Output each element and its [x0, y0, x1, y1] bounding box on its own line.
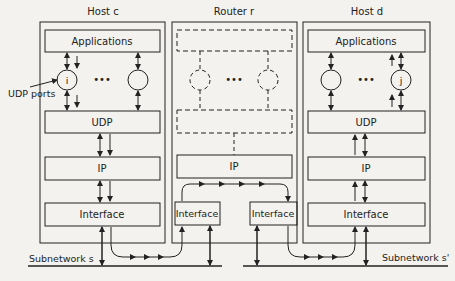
host-c-udp-label: UDP — [91, 117, 112, 128]
host-d-interface-label: Interface — [344, 209, 389, 220]
host-d: Host d Applications ••• j UDP IP Interfa… — [303, 6, 430, 243]
router-interface-left-label: Interface — [176, 208, 219, 219]
router-port-dashed-2 — [258, 70, 278, 90]
network-diagram: Host c Applications i ••• UDP ports UDP … — [0, 0, 455, 281]
host-d-ellipsis: ••• — [357, 74, 375, 85]
host-d-title: Host d — [351, 6, 383, 17]
router-port-dashed-1 — [190, 70, 210, 90]
router-udp-dashed — [177, 110, 292, 133]
router-ip-label: IP — [230, 161, 239, 172]
router-title: Router r — [214, 6, 255, 17]
udp-ports-annotation: UDP ports — [8, 88, 55, 99]
host-c-interface-label: Interface — [80, 209, 125, 220]
subnetwork-s-label: Subnetwork s — [29, 253, 94, 264]
router-ellipsis: ••• — [225, 74, 243, 85]
subnetwork-s-prime-label: Subnetwork s' — [382, 252, 449, 263]
router-r: Router r ••• IP Interface Interface — [172, 6, 297, 265]
host-c-ip-label: IP — [98, 163, 107, 174]
host-c-applications-label: Applications — [71, 36, 132, 47]
udp-port-d1 — [321, 70, 341, 90]
udp-port-c2 — [128, 70, 148, 90]
host-d-applications-label: Applications — [335, 36, 396, 47]
subnetworks: Subnetwork s Subnetwork s' — [28, 226, 449, 266]
host-d-ip-label: IP — [362, 163, 371, 174]
port-i-label: i — [66, 75, 69, 86]
router-interface-right-label: Interface — [252, 208, 295, 219]
router-applications-dashed — [177, 30, 292, 51]
host-d-udp-label: UDP — [355, 117, 376, 128]
port-j-label: j — [399, 75, 403, 86]
host-c: Host c Applications i ••• UDP ports UDP … — [8, 6, 165, 243]
host-c-title: Host c — [87, 6, 118, 17]
host-c-ellipsis: ••• — [93, 74, 111, 85]
